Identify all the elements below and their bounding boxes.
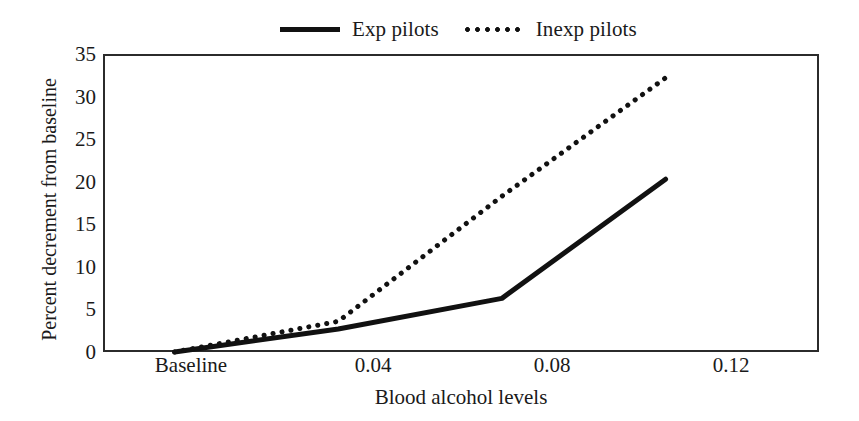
- x-tick-0-12: 0.12: [713, 355, 750, 376]
- dotted-line-swatch-icon: [465, 27, 525, 32]
- chart-legend: Exp pilots Inexp pilots: [280, 12, 700, 46]
- x-tick-baseline: Baseline: [155, 355, 227, 376]
- y-tick-30: 30: [56, 87, 96, 108]
- chart-figure: Exp pilots Inexp pilots Percent decremen…: [0, 0, 859, 421]
- legend-entry-exp-pilots[interactable]: Exp pilots: [280, 19, 439, 40]
- y-tick-5: 5: [56, 299, 96, 320]
- y-tick-25: 25: [56, 129, 96, 150]
- y-tick-10: 10: [56, 257, 96, 278]
- y-tick-15: 15: [56, 214, 96, 235]
- y-tick-35: 35: [56, 44, 96, 65]
- x-tick-0-08: 0.08: [534, 355, 571, 376]
- plot-area: [103, 54, 819, 352]
- solid-line-swatch-icon: [280, 27, 340, 32]
- legend-entry-inexp-pilots[interactable]: Inexp pilots: [465, 19, 637, 40]
- x-axis-title: Blood alcohol levels: [103, 385, 819, 410]
- y-tick-20: 20: [56, 172, 96, 193]
- x-tick-0-04: 0.04: [355, 355, 392, 376]
- x-axis-tick-labels: Baseline 0.04 0.08 0.12: [0, 355, 859, 385]
- legend-label-inexp-pilots: Inexp pilots: [536, 19, 637, 40]
- legend-label-exp-pilots: Exp pilots: [352, 19, 439, 40]
